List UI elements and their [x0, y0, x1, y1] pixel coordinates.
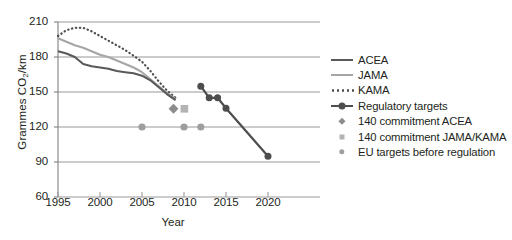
data-point	[180, 123, 187, 130]
series-line-acea	[58, 51, 176, 100]
data-point	[223, 105, 230, 112]
chart-figure: Grammes CO2/km Year 210 180 150 120 90 6…	[0, 0, 512, 240]
legend-key-line-acea	[330, 52, 356, 67]
legend-item-eu-targets-before-regulation: EU targets before regulation	[330, 144, 508, 159]
legend-item-jama: JAMA	[330, 67, 508, 82]
data-point	[206, 94, 213, 101]
x-tick-label-1995: 1995	[35, 196, 81, 208]
legend-label-acea: ACEA	[356, 54, 388, 66]
legend-item-kama: KAMA	[330, 83, 508, 98]
y-tick-marks	[54, 22, 58, 197]
x-tick-label-2015: 2015	[203, 196, 249, 208]
data-point	[265, 153, 272, 160]
x-tick-label-2010: 2010	[161, 196, 207, 208]
x-tick-label-2005: 2005	[119, 196, 165, 208]
legend-item-140-commitment-acea: 140 commitment ACEA	[330, 114, 508, 129]
data-point	[138, 123, 145, 130]
legend-label-jama: JAMA	[356, 69, 388, 81]
y-tick-label-180: 180	[14, 50, 48, 62]
legend-key-dotted-kama	[330, 83, 356, 98]
y-tick-label-120: 120	[14, 120, 48, 132]
legend-label-regulatory-targets: Regulatory targets	[356, 100, 448, 112]
x-tick-label-2000: 2000	[77, 196, 123, 208]
data-point	[197, 83, 204, 90]
legend-key-line-marker-regulatory-targets	[330, 98, 356, 113]
chart-legend: ACEA JAMA KAMA	[330, 52, 508, 160]
legend-key-square-140-jama-kama	[330, 129, 356, 144]
marker-140-commitment-jama-kama	[181, 105, 189, 113]
y-tick-label-210: 210	[14, 15, 48, 27]
legend-key-line-jama	[330, 68, 356, 83]
gridlines	[58, 22, 320, 162]
data-point	[214, 94, 221, 101]
y-tick-label-90: 90	[14, 155, 48, 167]
marker-140-commitment-acea	[169, 104, 179, 114]
legend-item-acea: ACEA	[330, 52, 508, 67]
x-tick-label-2020: 2020	[245, 196, 291, 208]
data-point	[197, 123, 204, 130]
y-tick-label-150: 150	[14, 85, 48, 97]
legend-key-diamond-140-acea	[330, 114, 356, 129]
legend-label-140-commitment-acea: 140 commitment ACEA	[356, 115, 472, 127]
legend-key-circle-eu-targets	[330, 145, 356, 160]
legend-label-kama: KAMA	[356, 84, 389, 96]
legend-item-140-commitment-jama-kama: 140 commitment JAMA/KAMA	[330, 129, 508, 144]
x-axis-title: Year	[58, 216, 288, 228]
legend-label-140-commitment-jama-kama: 140 commitment JAMA/KAMA	[356, 131, 506, 143]
legend-label-eu-targets-before-regulation: EU targets before regulation	[356, 146, 495, 158]
series-line-jama	[58, 38, 176, 99]
legend-item-regulatory-targets: Regulatory targets	[330, 98, 508, 113]
